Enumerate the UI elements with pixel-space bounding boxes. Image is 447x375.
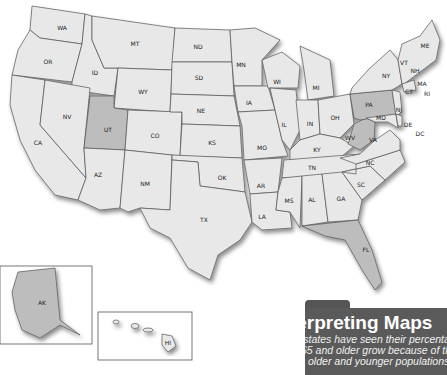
svg-text:MI: MI: [313, 84, 320, 91]
svg-text:RI: RI: [424, 90, 430, 97]
svg-text:GA: GA: [337, 195, 347, 202]
state-fl: [302, 220, 382, 290]
svg-text:MT: MT: [131, 40, 140, 47]
svg-text:PA: PA: [365, 101, 373, 108]
svg-text:VA: VA: [369, 136, 378, 143]
svg-text:WV: WV: [345, 134, 356, 141]
svg-text:ME: ME: [421, 42, 430, 49]
svg-text:AZ: AZ: [94, 171, 102, 178]
svg-text:LA: LA: [258, 213, 266, 220]
svg-text:CT: CT: [405, 88, 413, 95]
svg-text:WY: WY: [138, 88, 148, 95]
svg-text:VT: VT: [400, 59, 408, 66]
panel-body: Interpreting Maps Some states have seen …: [305, 308, 447, 375]
svg-text:IL: IL: [281, 121, 287, 128]
hawaii-inset: [98, 312, 192, 360]
svg-text:WA: WA: [57, 24, 68, 31]
svg-text:DE: DE: [404, 121, 413, 128]
panel-line-3: of both older and younger populations.: [305, 356, 447, 367]
svg-text:TN: TN: [307, 164, 316, 171]
svg-text:DC: DC: [416, 130, 425, 137]
svg-text:IA: IA: [246, 99, 253, 106]
svg-text:NV: NV: [63, 113, 72, 120]
svg-text:TX: TX: [199, 216, 208, 223]
svg-text:FL: FL: [363, 246, 370, 253]
svg-text:MD: MD: [376, 114, 386, 121]
svg-text:CO: CO: [151, 132, 160, 139]
svg-text:UT: UT: [104, 126, 112, 133]
svg-text:CA: CA: [34, 139, 43, 146]
state-wi: [262, 52, 300, 88]
svg-text:AL: AL: [308, 196, 316, 203]
state-new-england: [398, 20, 440, 84]
svg-text:AR: AR: [257, 182, 265, 189]
svg-text:ID: ID: [92, 69, 99, 76]
interpreting-maps-panel: Interpreting Maps Some states have seen …: [305, 300, 447, 375]
svg-text:SD: SD: [195, 74, 204, 81]
svg-text:NJ: NJ: [396, 106, 402, 114]
svg-text:NC: NC: [366, 159, 375, 166]
svg-text:ND: ND: [193, 43, 202, 50]
svg-text:NE: NE: [197, 107, 205, 114]
svg-text:MN: MN: [236, 61, 246, 68]
svg-text:OR: OR: [44, 58, 53, 65]
svg-text:AK: AK: [38, 299, 47, 306]
svg-text:HI: HI: [165, 339, 172, 346]
svg-text:MA: MA: [417, 80, 427, 87]
state-mi: [300, 46, 334, 100]
svg-text:MO: MO: [257, 144, 267, 151]
svg-text:OK: OK: [218, 174, 228, 181]
svg-text:KS: KS: [208, 139, 216, 146]
state-ny: [350, 50, 402, 94]
svg-text:SC: SC: [357, 181, 365, 188]
panel-title: Interpreting Maps: [305, 312, 447, 334]
state-ia: [234, 86, 275, 112]
svg-text:NM: NM: [140, 180, 150, 187]
svg-text:IN: IN: [307, 120, 313, 127]
svg-text:MS: MS: [285, 197, 294, 204]
svg-text:NH: NH: [411, 67, 420, 74]
svg-text:OH: OH: [330, 114, 339, 121]
svg-text:WI: WI: [273, 78, 281, 85]
svg-text:NY: NY: [382, 72, 390, 79]
svg-text:KY: KY: [313, 146, 321, 153]
